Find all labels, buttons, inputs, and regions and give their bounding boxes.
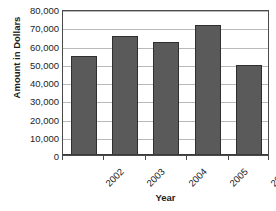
x-axis-tick-label-2006: 2006 [268, 166, 276, 189]
bar-2003[interactable] [112, 36, 138, 155]
bar-2002[interactable] [71, 56, 97, 155]
y-axis-tick-label: 0 [14, 152, 59, 161]
x-axis-tick-label-2002: 2002 [103, 166, 126, 189]
plot-area [62, 10, 269, 156]
bar-2006[interactable] [236, 65, 262, 155]
bar-series [63, 11, 268, 155]
bar-slot [146, 11, 187, 155]
y-axis-tick-label: 50,000 [14, 60, 59, 69]
y-axis-tick-label: 10,000 [14, 133, 59, 142]
x-axis-tick-label-2005: 2005 [227, 166, 250, 189]
bar-slot [63, 11, 104, 155]
bar-slot [187, 11, 228, 155]
x-axis-baseline [63, 154, 268, 155]
bar-slot [104, 11, 145, 155]
y-axis-tick-label: 60,000 [14, 42, 59, 51]
y-axis-tick-labels: 80,00070,00060,00050,00040,00030,00020,0… [14, 10, 59, 156]
y-axis-tick-label: 30,000 [14, 97, 59, 106]
bar-slot [229, 11, 269, 155]
bar-2004[interactable] [153, 42, 179, 155]
y-axis-tick-label: 20,000 [14, 115, 59, 124]
x-axis-tick-label-2004: 2004 [186, 166, 209, 189]
x-axis-tick-label-2003: 2003 [144, 166, 167, 189]
bar-2005[interactable] [195, 25, 221, 155]
y-axis-tick-label: 40,000 [14, 79, 59, 88]
y-axis-tick-label: 70,000 [14, 24, 59, 33]
x-axis-tick-labels: 20022003200420052006 [62, 160, 269, 190]
y-axis-tick-label: 80,000 [14, 6, 59, 15]
bar-chart: Annual Donations Amount in Dollars 80,00… [0, 0, 276, 211]
x-axis-title: Year [62, 192, 269, 203]
